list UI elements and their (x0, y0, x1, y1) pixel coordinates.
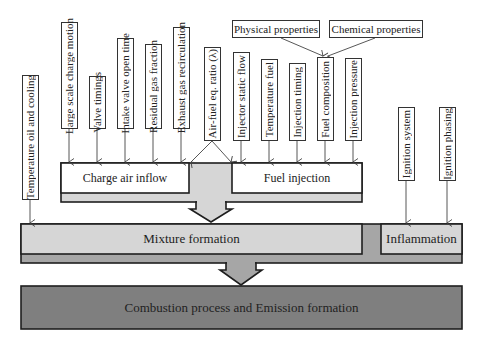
stage-fuel-injection: Fuel injection (232, 163, 362, 193)
factor-label: Intake valve open time (120, 33, 131, 134)
factor-air-fuel-ratio: Air-fuel eq. ratio (λ) (204, 47, 221, 141)
factor-injection-timing: Injection timing (289, 63, 306, 141)
factor-ignition-phasing: Ignition phasing (439, 107, 456, 181)
down-arrow-1 (190, 202, 232, 222)
factor-temperature-fuel: Temperature fuel (261, 59, 278, 141)
factor-label: Temperature oil and cooling (25, 75, 36, 199)
stage-charge-air-inflow: Charge air inflow (61, 163, 189, 193)
factor-injection-pressure: Injection pressure (345, 58, 362, 141)
factor-label: Large scale charge motion (64, 18, 75, 134)
stage-label: Charge air inflow (83, 171, 167, 186)
factor-label: Fuel composition (320, 61, 331, 138)
factor-label: Injection pressure (348, 60, 359, 139)
stage-mixture-formation: Mixture formation (21, 224, 362, 254)
factor-label: Residual gas fraction (148, 40, 159, 133)
factor-label: Injector static flow (236, 55, 247, 138)
factor-label: Ignition system (401, 110, 412, 178)
stage-label: Combustion process and Emission formatio… (125, 300, 359, 316)
factor-ignition-system: Ignition system (398, 107, 415, 181)
physical-properties-box: Physical properties (232, 20, 320, 38)
stage-label: Fuel injection (264, 171, 330, 186)
factor-label: Temperature fuel (264, 62, 275, 137)
factor-label: Injection timing (292, 67, 303, 138)
stage-inflammation: Inflammation (381, 224, 462, 254)
factor-valve-timings: Valve timings (89, 76, 106, 129)
chemical-properties-label: Chemical properties (332, 23, 421, 35)
factor-label: Valve timings (92, 72, 103, 133)
stage-label: Inflammation (386, 231, 457, 247)
factor-label: Air-fuel eq. ratio (λ) (207, 49, 218, 138)
factor-label: Ignition phasing (442, 108, 453, 180)
stage-label: Mixture formation (143, 231, 239, 247)
physical-properties-label: Physical properties (234, 23, 318, 35)
factor-label: Exhaust gas recirculation (176, 22, 187, 133)
chemical-properties-box: Chemical properties (329, 20, 423, 38)
down-arrow-2 (220, 263, 262, 285)
factor-fuel-composition: Fuel composition (317, 57, 334, 141)
stage-combustion-emission: Combustion process and Emission formatio… (21, 286, 462, 329)
factor-intake-valve-open-time: Intake valve open time (117, 38, 134, 129)
factor-exhaust-gas-recirculation: Exhaust gas recirculation (173, 27, 190, 129)
factor-residual-gas-fraction: Residual gas fraction (145, 44, 162, 129)
factor-large-scale-charge-motion: Large scale charge motion (61, 22, 78, 129)
factor-injector-static-flow: Injector static flow (233, 52, 250, 141)
factor-temperature-oil-cooling: Temperature oil and cooling (22, 75, 39, 200)
